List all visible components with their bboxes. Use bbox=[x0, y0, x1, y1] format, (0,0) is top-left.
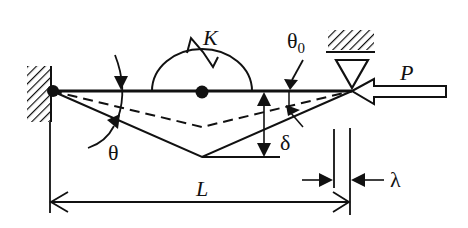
label-theta0-subscript: 0 bbox=[298, 40, 306, 56]
label-spring-k: K bbox=[203, 27, 218, 49]
label-load-p: P bbox=[400, 62, 413, 84]
lambda-dimension bbox=[302, 129, 384, 188]
rotational-spring bbox=[152, 38, 252, 91]
left-pin bbox=[47, 85, 59, 97]
center-hinge bbox=[196, 86, 209, 99]
label-delta: δ bbox=[280, 132, 290, 154]
label-length-l: L bbox=[196, 178, 208, 200]
theta0-marker bbox=[284, 60, 303, 127]
roller-support bbox=[326, 30, 375, 88]
label-theta0-symbol: θ bbox=[287, 28, 298, 53]
label-theta0: θ0 bbox=[287, 30, 305, 56]
theta-arc bbox=[88, 55, 128, 148]
left-wall bbox=[27, 66, 51, 122]
load-arrow bbox=[352, 79, 446, 104]
diagram-drawing bbox=[0, 0, 468, 228]
diagram-canvas: K θ0 P θ δ L λ bbox=[0, 0, 468, 228]
label-theta: θ bbox=[108, 142, 119, 164]
label-lambda: λ bbox=[390, 169, 401, 191]
length-dimension bbox=[50, 122, 350, 215]
